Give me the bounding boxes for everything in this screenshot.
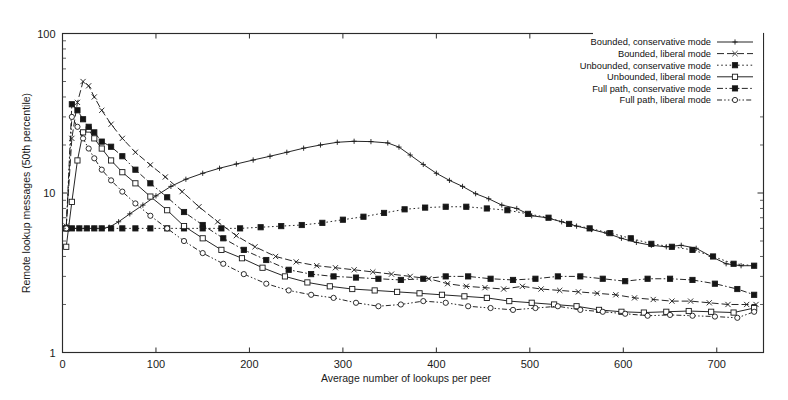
marker-open-circle (200, 250, 205, 255)
marker-filled-square (402, 207, 407, 212)
marker-plus (267, 154, 272, 159)
marker-plus (217, 166, 222, 171)
marker-open-circle (752, 309, 757, 314)
marker-open-square (732, 74, 737, 79)
marker-filled-square (488, 276, 493, 281)
marker-filled-square (690, 247, 695, 252)
marker-open-circle (165, 226, 170, 231)
marker-open-square (484, 295, 489, 300)
marker-filled-square (443, 204, 448, 209)
marker-filled-square (732, 86, 737, 91)
marker-filled-square (264, 257, 269, 262)
series-group (64, 114, 757, 320)
marker-open-square (109, 158, 114, 163)
series-group (64, 204, 757, 268)
marker-plus (318, 142, 323, 147)
marker-filled-square (600, 276, 605, 281)
x-tick-label: 600 (614, 358, 632, 370)
marker-open-circle (120, 189, 125, 194)
marker-open-square (731, 310, 736, 315)
marker-filled-square (710, 254, 715, 259)
legend-label: Bounded, liberal mode (618, 49, 711, 59)
marker-open-circle (623, 311, 628, 316)
marker-filled-square (587, 226, 592, 231)
x-tick-label: 400 (427, 358, 445, 370)
marker-open-square (350, 286, 355, 291)
marker-filled-square (133, 167, 138, 172)
marker-open-square (148, 194, 153, 199)
marker-filled-square (546, 215, 551, 220)
series-group (64, 102, 757, 298)
marker-open-circle (75, 124, 80, 129)
marker-filled-square (361, 214, 366, 219)
marker-plus (234, 161, 239, 166)
marker-filled-square (608, 231, 613, 236)
y-axis-label: Remote lookup messages (50th percentile) (20, 93, 32, 293)
marker-plus (499, 202, 504, 207)
marker-open-circle (286, 288, 291, 293)
legend-label: Bounded, conservative mode (591, 37, 711, 47)
marker-open-circle (732, 97, 737, 102)
series-markers (64, 114, 757, 320)
x-axis-label: Average number of lookups per peer (321, 372, 492, 384)
marker-filled-square (484, 206, 489, 211)
marker-plus (183, 177, 188, 182)
marker-plus (434, 171, 439, 176)
marker-open-circle (353, 300, 358, 305)
marker-open-square (99, 146, 104, 151)
marker-cross (109, 122, 114, 127)
y-tick-label: 100 (37, 28, 55, 40)
marker-filled-square (623, 279, 628, 284)
chart-curves (64, 79, 759, 321)
marker-filled-square (555, 274, 560, 279)
marker-open-circle (488, 305, 493, 310)
marker-open-square (133, 181, 138, 186)
marker-filled-square (299, 222, 304, 227)
marker-filled-square (109, 144, 114, 149)
marker-filled-square (443, 274, 448, 279)
marker-filled-square (735, 286, 740, 291)
marker-open-circle (221, 261, 226, 266)
marker-filled-square (165, 195, 170, 200)
marker-plus (460, 184, 465, 189)
x-tick-label: 0 (59, 358, 65, 370)
marker-filled-square (525, 211, 530, 216)
marker-open-circle (309, 292, 314, 297)
marker-plus (514, 206, 519, 211)
marker-filled-square (309, 272, 314, 277)
marker-filled-square (712, 281, 717, 286)
marker-open-square (529, 300, 534, 305)
marker-open-square (709, 309, 714, 314)
x-tick-label: 100 (147, 358, 165, 370)
marker-open-square (219, 247, 224, 252)
marker-plus (251, 157, 256, 162)
marker-open-circle (69, 114, 74, 119)
marker-filled-square (731, 261, 736, 266)
marker-filled-square (320, 220, 325, 225)
marker-plus (473, 191, 478, 196)
marker-open-circle (466, 304, 471, 309)
marker-filled-square (566, 221, 571, 226)
marker-filled-square (690, 277, 695, 282)
marker-filled-square (69, 102, 74, 107)
marker-filled-square (92, 226, 97, 231)
marker-filled-square (84, 226, 89, 231)
marker-plus (284, 150, 289, 155)
series-group (64, 139, 757, 269)
marker-filled-square (75, 108, 80, 113)
marker-open-circle (578, 307, 583, 312)
marker-open-square (165, 208, 170, 213)
marker-open-square (327, 284, 332, 289)
x-tick-label: 200 (240, 358, 258, 370)
marker-cross (196, 204, 201, 209)
marker-cross (148, 162, 153, 167)
marker-cross (86, 83, 91, 88)
marker-open-circle (133, 201, 138, 206)
marker-cross (215, 219, 220, 224)
series-line (66, 117, 754, 318)
marker-open-circle (421, 299, 426, 304)
marker-filled-square (181, 209, 186, 214)
marker-filled-square (421, 276, 426, 281)
marker-filled-square (279, 224, 284, 229)
marker-plus (486, 196, 491, 201)
